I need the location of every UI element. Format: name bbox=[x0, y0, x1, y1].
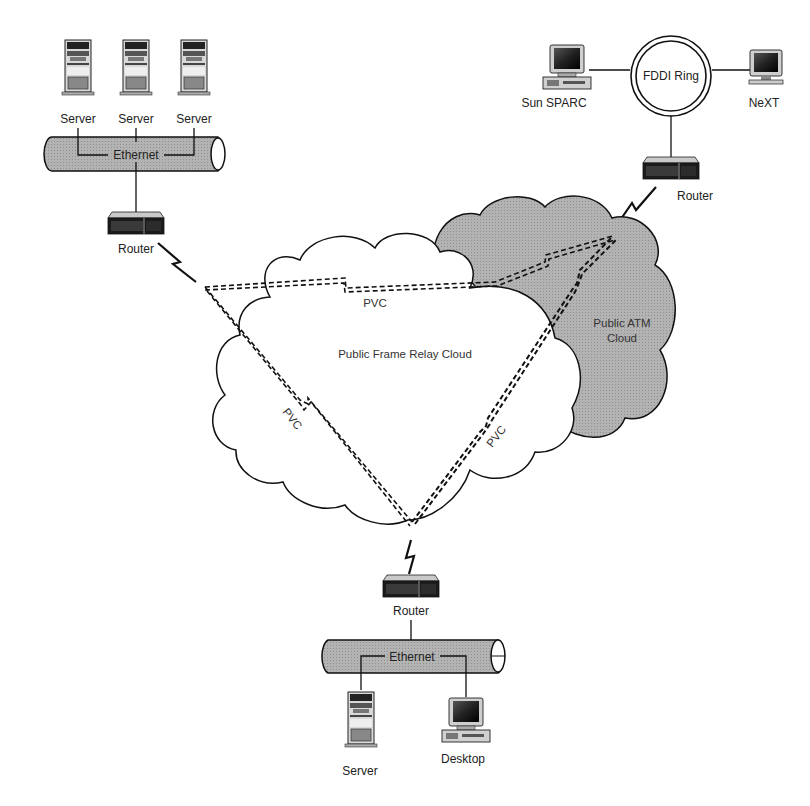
server-icon[interactable] bbox=[345, 692, 377, 747]
serial-link-icon bbox=[406, 540, 414, 574]
desktop-icon[interactable] bbox=[442, 698, 490, 742]
server-label: Server bbox=[176, 112, 211, 126]
pvc-label-top: PVC bbox=[363, 297, 387, 309]
router-icon[interactable] bbox=[108, 212, 164, 234]
server-icon bbox=[62, 40, 94, 95]
server-icon bbox=[178, 40, 210, 95]
sun-sparc-label: Sun SPARC bbox=[521, 96, 586, 110]
router-label: Router bbox=[118, 242, 154, 256]
frame-relay-cloud-label: Public Frame Relay Cloud bbox=[338, 348, 472, 360]
router-label: Router bbox=[393, 604, 429, 618]
desktop-label: Desktop bbox=[441, 752, 485, 766]
router-label: Router bbox=[677, 189, 713, 203]
ethernet-label: Ethernet bbox=[389, 650, 435, 664]
server-label: Server bbox=[60, 112, 95, 126]
sun-sparc-workstation-icon[interactable] bbox=[543, 45, 591, 89]
fddi-ring-label: FDDI Ring bbox=[643, 69, 699, 83]
atm-cloud-label: Cloud bbox=[607, 332, 637, 344]
server-label: Server bbox=[342, 764, 377, 778]
router-icon[interactable] bbox=[383, 575, 439, 597]
router-icon[interactable] bbox=[643, 157, 699, 179]
atm-cloud-label: Public ATM bbox=[593, 317, 650, 329]
bottom-site: Router Ethernet Server Desktop bbox=[322, 540, 505, 778]
next-label: NeXT bbox=[749, 96, 780, 110]
next-workstation-icon[interactable] bbox=[749, 50, 783, 84]
ethernet-label: Ethernet bbox=[113, 148, 159, 162]
server-label: Server bbox=[118, 112, 153, 126]
server-icon bbox=[120, 40, 152, 95]
top-left-site: Server Server Server Ethernet Router bbox=[44, 40, 225, 282]
network-diagram: Server Server Server Ethernet Router Sun… bbox=[0, 0, 810, 806]
serial-link-icon bbox=[158, 243, 196, 282]
